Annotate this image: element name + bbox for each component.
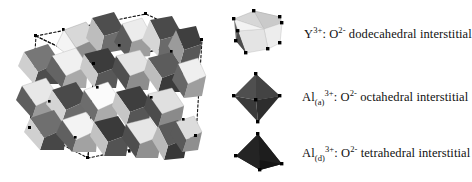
cation-symbol: Al [302, 90, 315, 104]
legend-item-dodecahedral: Y3+: O2- dodecahedral interstitial [220, 4, 465, 64]
site-description: dodecahedral interstitial [346, 27, 472, 41]
legend-label-octahedral: Al(a)3+: O2- octahedral interstitial [302, 89, 468, 107]
separator: : [334, 146, 341, 160]
separator: : [334, 90, 341, 104]
legend-item-octahedral: Al(a)3+: O2- octahedral interstitial [220, 70, 465, 126]
anion-charge: 2- [338, 25, 345, 35]
garnet-unit-cell-diagram [0, 0, 220, 182]
cation-symbol: Al [302, 146, 315, 160]
site-description: octahedral interstitial [357, 90, 468, 104]
cation-charge: 3+ [325, 144, 334, 154]
structure-panel [0, 0, 220, 182]
tetrahedron-icon [230, 130, 288, 178]
site-description: tetrahedral interstitial [357, 146, 470, 160]
anion-symbol: O [341, 90, 350, 104]
cation-site-subscript: (a) [315, 96, 325, 106]
cation-site-subscript: (d) [315, 152, 325, 162]
legend-panel: Y3+: O2- dodecahedral interstitial [220, 0, 465, 182]
legend-label-dodecahedral: Y3+: O2- dodecahedral interstitial [304, 26, 472, 42]
legend-label-tetrahedral: Al(d)3+: O2- tetrahedral interstitial [302, 145, 470, 163]
anion-symbol: O [341, 146, 350, 160]
anion-charge: 2- [350, 88, 357, 98]
dodecahedron-icon [224, 5, 296, 63]
cation-symbol: Y [304, 27, 313, 41]
anion-symbol: O [329, 27, 338, 41]
octahedron-icon [228, 70, 290, 126]
cation-charge: 3+ [313, 25, 322, 35]
legend-item-tetrahedral: Al(d)3+: O2- tetrahedral interstitial [220, 128, 465, 180]
cation-charge: 3+ [324, 88, 333, 98]
